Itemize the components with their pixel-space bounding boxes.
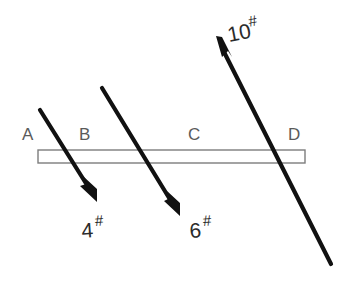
force-4-magnitude: 4 [81,218,95,242]
force-diagram-figure: A B C D 4 # 6 # 10 # [0,0,351,285]
force-label-10: 10 # [224,11,261,46]
force-6-magnitude: 6 [189,218,202,242]
force-6-unit: # [202,211,212,229]
point-label-d: D [288,125,301,144]
point-label-c: C [188,125,201,144]
beam [38,150,305,163]
force-10-unit: # [247,11,259,29]
force-label-4: 4 # [80,211,105,242]
point-label-b: B [79,125,91,144]
force-label-6: 6 # [188,211,213,242]
force-4-unit: # [94,211,104,229]
force-6-shaft [102,88,174,206]
figure-canvas: A B C D 4 # 6 # 10 # [0,0,351,285]
point-label-a: A [22,125,34,144]
